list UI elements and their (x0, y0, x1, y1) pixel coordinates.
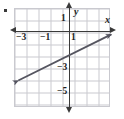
graph-figure: x y −3 −1 1 1 −3 −5 (0, 0, 124, 119)
linear-function-line (18, 34, 111, 80)
plotted-line-layer (0, 0, 124, 119)
